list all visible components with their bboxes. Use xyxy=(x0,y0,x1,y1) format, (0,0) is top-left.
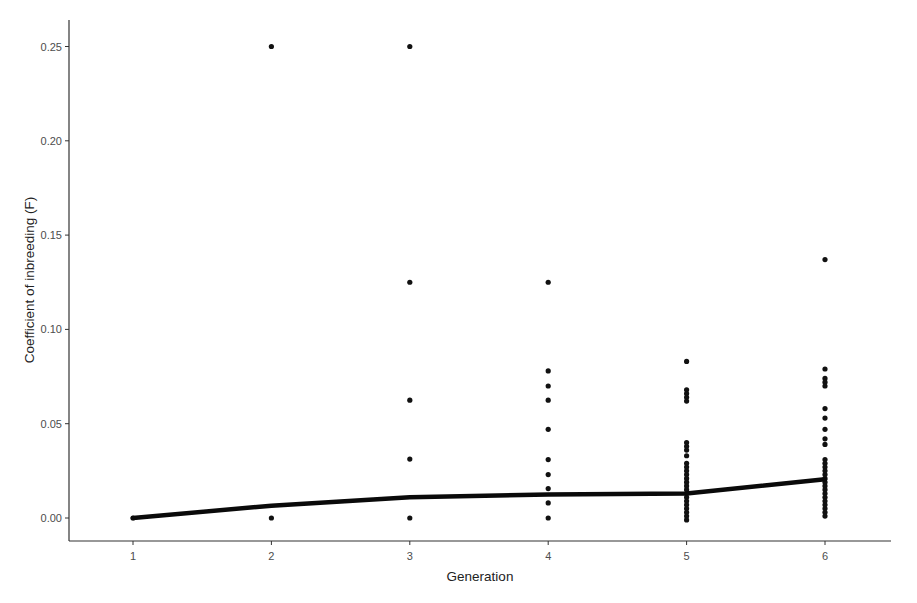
data-point xyxy=(684,517,689,522)
x-tick-label: 6 xyxy=(822,550,828,562)
x-axis-title: Generation xyxy=(447,569,514,584)
data-point xyxy=(684,453,689,458)
data-point xyxy=(546,383,551,388)
data-point xyxy=(407,515,412,520)
y-tick-label: 0.15 xyxy=(41,229,62,241)
data-point xyxy=(822,406,827,411)
data-point xyxy=(822,514,827,519)
data-point xyxy=(822,366,827,371)
data-point xyxy=(546,515,551,520)
data-point xyxy=(546,280,551,285)
y-axis-title: Coefficient of inbreeding (F) xyxy=(22,197,37,363)
x-tick-label: 4 xyxy=(545,550,551,562)
scatter-chart: 0.000.050.100.150.200.25 123456 Generati… xyxy=(0,0,917,603)
data-point xyxy=(269,515,274,520)
data-points xyxy=(130,44,827,523)
y-axis-ticks: 0.000.050.100.150.200.25 xyxy=(41,41,69,525)
x-tick-label: 5 xyxy=(684,550,690,562)
y-tick-label: 0.20 xyxy=(41,135,62,147)
x-tick-label: 2 xyxy=(268,550,274,562)
x-tick-label: 3 xyxy=(407,550,413,562)
trend-line xyxy=(133,479,825,518)
data-point xyxy=(684,359,689,364)
data-point xyxy=(269,44,274,49)
data-point xyxy=(546,368,551,373)
data-point xyxy=(546,398,551,403)
data-point xyxy=(822,383,827,388)
data-point xyxy=(822,442,827,447)
data-point xyxy=(407,398,412,403)
x-axis-ticks: 123456 xyxy=(130,541,828,562)
data-point xyxy=(407,456,412,461)
x-tick-label: 1 xyxy=(130,550,136,562)
data-point xyxy=(822,415,827,420)
data-point xyxy=(407,44,412,49)
data-point xyxy=(407,280,412,285)
data-point xyxy=(822,436,827,441)
data-point xyxy=(684,448,689,453)
y-tick-label: 0.25 xyxy=(41,41,62,53)
y-tick-label: 0.00 xyxy=(41,512,62,524)
data-point xyxy=(546,500,551,505)
data-point xyxy=(684,398,689,403)
data-point xyxy=(546,427,551,432)
data-point xyxy=(546,457,551,462)
data-point xyxy=(822,257,827,262)
data-point xyxy=(546,472,551,477)
data-point xyxy=(546,486,551,491)
data-point xyxy=(822,427,827,432)
y-tick-label: 0.10 xyxy=(41,323,62,335)
y-tick-label: 0.05 xyxy=(41,418,62,430)
